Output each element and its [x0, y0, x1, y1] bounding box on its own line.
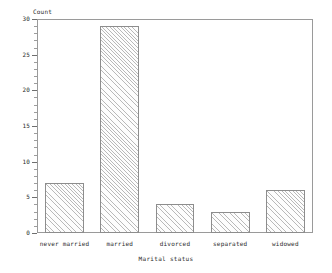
bar — [266, 190, 305, 233]
y-axis-minor-tick — [34, 219, 37, 220]
x-axis-tick-label: never married — [37, 240, 92, 247]
y-axis-minor-tick — [34, 26, 37, 27]
bar — [211, 212, 250, 233]
y-axis-minor-tick — [34, 105, 37, 106]
x-axis-tick-label: married — [92, 240, 147, 247]
bar — [45, 183, 84, 233]
y-axis-minor-tick — [34, 83, 37, 84]
y-axis-minor-tick — [34, 176, 37, 177]
y-axis-minor-tick — [34, 133, 37, 134]
y-axis-tick-label: 25 — [8, 51, 30, 58]
y-axis-minor-tick — [34, 48, 37, 49]
y-axis-minor-tick — [34, 190, 37, 191]
y-axis-major-tick — [32, 126, 37, 127]
bar — [156, 204, 195, 233]
y-axis-minor-tick — [34, 147, 37, 148]
y-axis-minor-tick — [34, 62, 37, 63]
y-axis-tick-label: 5 — [8, 193, 30, 200]
bar-chart: Count 051015202530 never marriedmarriedd… — [0, 0, 332, 273]
y-axis-tick-label: 10 — [8, 158, 30, 165]
y-axis-minor-tick — [34, 169, 37, 170]
y-axis-major-tick — [32, 197, 37, 198]
y-axis-minor-tick — [34, 76, 37, 77]
y-axis-minor-tick — [34, 112, 37, 113]
y-axis-tick-label: 30 — [8, 15, 30, 22]
y-axis-major-tick — [32, 90, 37, 91]
y-axis-tick-label: 20 — [8, 86, 30, 93]
y-axis-tick-label: 15 — [8, 122, 30, 129]
y-axis-major-tick — [32, 233, 37, 234]
y-axis-major-tick — [32, 19, 37, 20]
y-axis-minor-tick — [34, 119, 37, 120]
y-axis-major-tick — [32, 162, 37, 163]
y-axis-minor-tick — [34, 212, 37, 213]
y-axis-minor-tick — [34, 226, 37, 227]
y-axis-minor-tick — [34, 155, 37, 156]
y-axis-minor-tick — [34, 40, 37, 41]
x-axis-title: Marital status — [0, 255, 332, 262]
y-axis-minor-tick — [34, 204, 37, 205]
x-axis-tick-label: separated — [203, 240, 258, 247]
y-axis-title: Count — [33, 8, 52, 15]
y-axis-minor-tick — [34, 69, 37, 70]
y-axis-minor-tick — [34, 183, 37, 184]
bar — [100, 26, 139, 233]
y-axis-minor-tick — [34, 33, 37, 34]
x-axis-tick-label: divorced — [147, 240, 202, 247]
y-axis-tick-label: 0 — [8, 229, 30, 236]
y-axis-minor-tick — [34, 97, 37, 98]
y-axis-major-tick — [32, 55, 37, 56]
x-axis-tick-label: widowed — [258, 240, 313, 247]
y-axis-minor-tick — [34, 140, 37, 141]
